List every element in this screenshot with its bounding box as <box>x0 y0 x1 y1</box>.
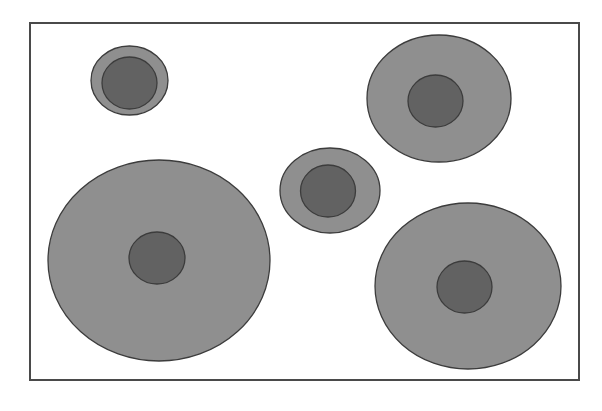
cell-middle <box>280 148 380 233</box>
cell-nucleus <box>102 57 157 109</box>
cell-nucleus <box>301 165 356 217</box>
diagram-canvas <box>0 0 602 411</box>
cell-diagram <box>0 0 602 411</box>
cell-bottom-left <box>48 160 270 361</box>
cell-bottom-right <box>375 203 561 369</box>
cell-nucleus <box>408 75 463 127</box>
cell-top-left <box>91 46 168 115</box>
cell-top-right <box>367 35 511 162</box>
cell-nucleus <box>437 261 492 313</box>
cell-nucleus <box>129 232 185 284</box>
